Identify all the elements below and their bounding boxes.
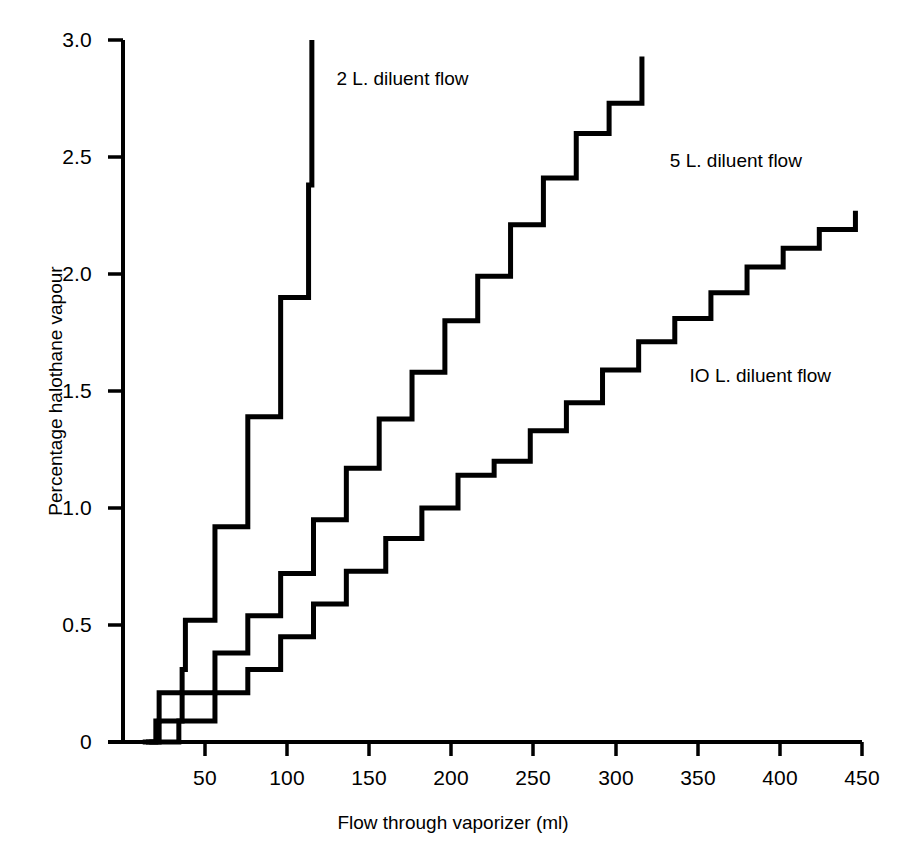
x-tick-label-300: 300 [586, 766, 646, 790]
x-tick-label-50: 50 [175, 766, 235, 790]
x-tick-label-150: 150 [339, 766, 399, 790]
series-label-2l: 2 L. diluent flow [336, 68, 468, 90]
y-tick-label-0: 0 [30, 730, 92, 754]
series-line-5l [146, 56, 642, 742]
x-tick-label-250: 250 [503, 766, 563, 790]
y-tick-label-3: 3.0 [30, 28, 92, 52]
chart-figure: 3.0 2.5 2.0 1.5 1.0 0.5 0 50 100 150 200… [0, 0, 906, 860]
y-tick-label-25: 2.5 [30, 145, 92, 169]
x-axis-title: Flow through vaporizer (ml) [0, 812, 906, 834]
x-axis-ticks [205, 742, 862, 756]
x-tick-label-100: 100 [257, 766, 317, 790]
series-line-10l [149, 211, 855, 742]
x-tick-label-400: 400 [750, 766, 810, 790]
y-axis-ticks [108, 40, 123, 742]
data-series-group [143, 40, 856, 742]
x-tick-label-350: 350 [668, 766, 728, 790]
y-axis-title: Percentage halothane vapour [45, 231, 67, 551]
series-label-5l: 5 L. diluent flow [670, 150, 802, 172]
x-tick-label-450: 450 [832, 766, 892, 790]
series-label-10l: IO L. diluent flow [690, 365, 832, 387]
y-tick-label-05: 0.5 [30, 613, 92, 637]
x-tick-label-200: 200 [421, 766, 481, 790]
chart-plot-area [0, 0, 906, 860]
axis-lines [108, 40, 862, 742]
